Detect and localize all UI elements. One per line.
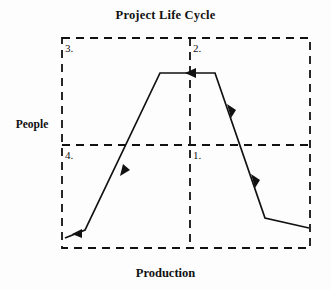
quadrant-label-bottom-left: 4. [65, 150, 73, 161]
quadrant-label-bottom-right: 1. [193, 150, 201, 161]
ascent-arrow-icon [120, 164, 130, 176]
plot-svg [0, 0, 331, 290]
plot-frame [62, 38, 310, 248]
quadrant-label-top-left: 3. [65, 43, 73, 54]
project-life-cycle-figure: Project Life Cycle People Production 3 [0, 0, 331, 290]
life-cycle-curve [65, 73, 309, 238]
start-arrow-icon [72, 229, 82, 238]
plot-area [62, 38, 310, 248]
quadrant-label-top-right: 2. [193, 43, 201, 54]
